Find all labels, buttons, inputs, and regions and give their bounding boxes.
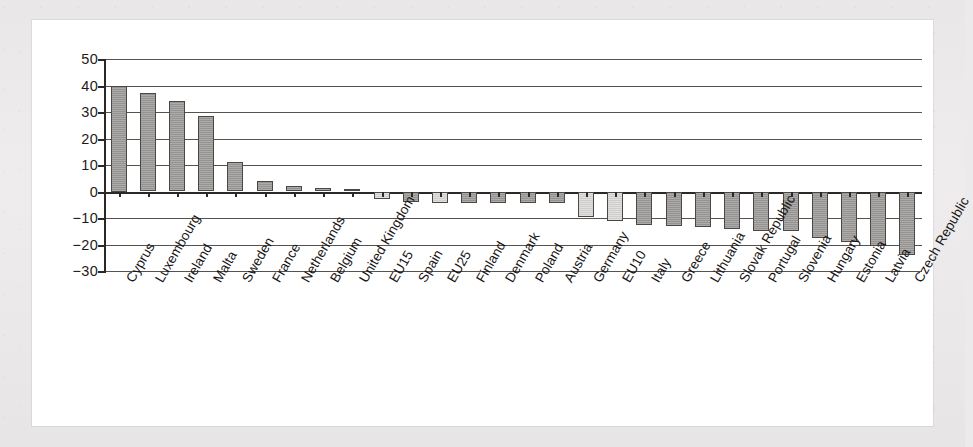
x-axis-tick-mark: [148, 192, 150, 197]
x-axis-tick-mark: [177, 192, 179, 197]
y-axis-tick-label: 40: [60, 78, 98, 93]
x-axis-tick-mark: [907, 192, 909, 197]
x-axis-tick-mark: [352, 192, 354, 197]
x-axis-tick-mark: [703, 192, 705, 197]
x-axis-tick-mark: [119, 192, 121, 197]
x-axis-tick-mark: [440, 192, 442, 197]
x-axis-tick-mark: [644, 192, 646, 197]
x-axis-tick-mark: [528, 192, 530, 197]
x-axis-tick-mark: [878, 192, 880, 197]
x-axis-tick-mark: [849, 192, 851, 197]
bar: [111, 86, 127, 192]
x-axis-tick-mark: [235, 192, 237, 197]
x-axis-tick-labels: CyprusLuxembourgIrelandMaltaSwedenFrance…: [104, 278, 922, 418]
y-axis-tick-labels: 50403020100−10−20−30: [52, 59, 98, 272]
y-axis-tick-label: −10: [60, 211, 98, 226]
bar: [812, 192, 828, 238]
x-axis-tick-mark: [615, 192, 617, 197]
bar: [666, 192, 682, 226]
y-axis-tick-label: 10: [60, 158, 98, 173]
bar: [198, 116, 214, 192]
x-axis-tick-mark: [498, 192, 500, 197]
x-axis-tick-mark: [206, 192, 208, 197]
x-axis-tick-mark: [732, 192, 734, 197]
bar-chart: 50403020100−10−20−30 CyprusLuxembourgIre…: [32, 20, 933, 426]
x-axis-tick-mark: [586, 192, 588, 197]
y-axis-tick-label: 20: [60, 131, 98, 146]
x-axis-tick-mark: [382, 192, 384, 197]
x-axis-tick-mark: [294, 192, 296, 197]
y-axis-tick-label: 0: [60, 184, 98, 199]
bar: [870, 192, 886, 246]
bar: [695, 192, 711, 228]
bar: [227, 162, 243, 191]
x-axis-tick-mark: [761, 192, 763, 197]
x-axis-tick-mark: [265, 192, 267, 197]
x-axis-tick-mark: [557, 192, 559, 197]
x-axis-tick-mark: [323, 192, 325, 197]
x-axis-tick-mark: [820, 192, 822, 197]
y-axis-tick-label: 30: [60, 105, 98, 120]
x-axis-tick-mark: [469, 192, 471, 197]
y-axis-tick-label: −20: [60, 237, 98, 252]
x-axis-tick-mark: [674, 192, 676, 197]
bar: [724, 192, 740, 229]
bar: [169, 101, 185, 191]
y-axis-tick-label: −30: [60, 264, 98, 279]
chart-panel: 50403020100−10−20−30 CyprusLuxembourgIre…: [32, 20, 933, 426]
bar: [257, 181, 273, 192]
y-axis-tick-label: 50: [60, 52, 98, 67]
bar: [140, 93, 156, 191]
